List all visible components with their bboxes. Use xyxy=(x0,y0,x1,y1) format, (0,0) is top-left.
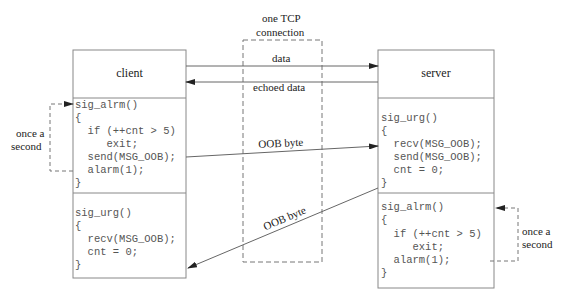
code-line: sig_alrm() xyxy=(381,201,444,214)
client-timer-label-line2: second xyxy=(11,140,42,152)
code-line: sig_urg() xyxy=(75,207,132,220)
code-line: if (++cnt > 5) xyxy=(75,125,176,138)
server-timer-label-line2: second xyxy=(522,238,553,250)
oob-to-server-label: OOB byte xyxy=(258,136,303,150)
code-line: exit; xyxy=(75,138,138,151)
oob-to-client-arrow xyxy=(188,188,378,268)
client-timer-loop xyxy=(50,104,73,171)
code-line: cnt = 0; xyxy=(381,164,444,177)
code-line: sig_urg() xyxy=(381,112,438,125)
data-label: data xyxy=(272,52,290,64)
code-line: sig_alrm() xyxy=(75,99,138,112)
code-line: } xyxy=(75,259,81,272)
connection-label-line2: connection xyxy=(256,26,304,38)
server-title: server xyxy=(378,66,494,81)
code-line: recv(MSG_OOB); xyxy=(381,138,482,151)
echoed-data-label: echoed data xyxy=(253,81,305,93)
client-timer-label-line1: once a xyxy=(16,127,44,139)
server-timer-label-line1: once a xyxy=(522,225,550,237)
code-line: if (++cnt > 5) xyxy=(381,228,482,241)
code-line: } xyxy=(381,177,387,190)
code-line: { xyxy=(75,112,81,125)
code-line: alarm(1); xyxy=(381,254,450,267)
code-line: } xyxy=(75,177,81,190)
code-line: alarm(1); xyxy=(75,164,144,177)
code-line: { xyxy=(381,125,387,138)
code-line: } xyxy=(381,267,387,280)
code-line: exit; xyxy=(381,241,444,254)
connection-label-line1: one TCP xyxy=(262,12,301,24)
code-line: send(MSG_OOB); xyxy=(75,151,176,164)
code-line: { xyxy=(381,214,387,227)
code-line: cnt = 0; xyxy=(75,246,138,259)
code-line: recv(MSG_OOB); xyxy=(75,233,176,246)
code-line: send(MSG_OOB); xyxy=(381,151,482,164)
client-title: client xyxy=(73,66,186,81)
code-line: { xyxy=(75,220,81,233)
